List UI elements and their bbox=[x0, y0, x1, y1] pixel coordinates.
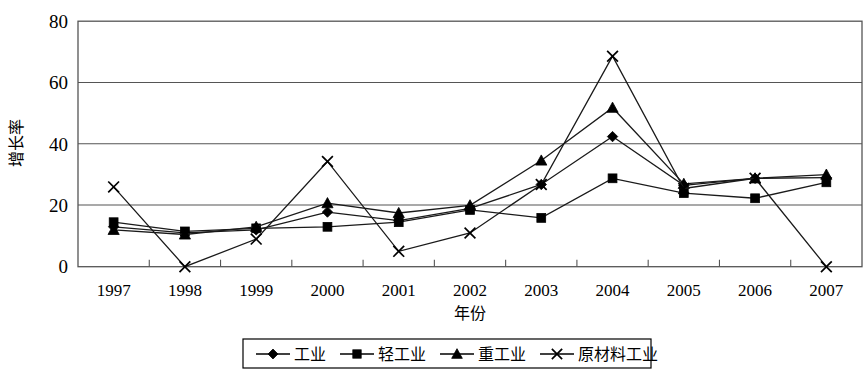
diamond-marker bbox=[322, 207, 332, 217]
x-tick-label: 2005 bbox=[667, 281, 701, 300]
chart-svg: 80 60 40 20 0 增长率 1997199819992000200120… bbox=[0, 0, 866, 369]
series-line bbox=[114, 108, 827, 235]
y-tick-20: 20 bbox=[49, 195, 68, 216]
series-layer bbox=[108, 51, 832, 272]
square-marker bbox=[537, 214, 546, 223]
y-tick-40: 40 bbox=[49, 134, 68, 155]
x-tick-label: 2004 bbox=[596, 281, 631, 300]
x-tick-label: 1997 bbox=[97, 281, 132, 300]
triangle-marker bbox=[322, 198, 333, 208]
x-marker bbox=[607, 51, 618, 62]
series-x bbox=[108, 51, 832, 272]
x-axis-title: 年份 bbox=[454, 304, 486, 323]
square-marker bbox=[394, 218, 403, 227]
gridlines bbox=[78, 83, 862, 206]
x-tick-label: 2002 bbox=[453, 281, 487, 300]
x-tick-label: 1999 bbox=[239, 281, 273, 300]
legend-label: 重工业 bbox=[478, 345, 526, 364]
x-tick-label: 2006 bbox=[738, 281, 772, 300]
x-tick-label: 2001 bbox=[382, 281, 416, 300]
x-marker bbox=[322, 156, 333, 167]
series-diamond bbox=[108, 131, 831, 238]
line-chart: 80 60 40 20 0 增长率 1997199819992000200120… bbox=[0, 0, 866, 369]
x-tick-label: 2000 bbox=[310, 281, 344, 300]
square-marker bbox=[751, 194, 760, 203]
x-marker bbox=[465, 228, 476, 239]
y-tick-80: 80 bbox=[49, 11, 68, 32]
x-marker bbox=[393, 246, 404, 257]
series-line bbox=[114, 56, 827, 267]
triangle-marker bbox=[607, 102, 618, 112]
legend-label: 工业 bbox=[294, 345, 326, 364]
x-marker bbox=[108, 182, 119, 193]
square-marker bbox=[353, 350, 361, 358]
square-marker bbox=[608, 174, 617, 183]
x-tick-label: 1998 bbox=[168, 281, 202, 300]
x-tick-label: 2007 bbox=[809, 281, 844, 300]
y-tick-0: 0 bbox=[59, 256, 69, 277]
triangle-marker bbox=[536, 155, 547, 165]
triangle-marker bbox=[821, 169, 832, 179]
legend-label: 轻工业 bbox=[378, 345, 426, 364]
series-triangle bbox=[108, 102, 832, 239]
legend: 工业轻工业重工业原材料工业 bbox=[243, 339, 658, 368]
legend-label: 原材料工业 bbox=[578, 345, 658, 364]
y-axis-ticks: 80 60 40 20 0 bbox=[49, 11, 68, 277]
series-line bbox=[114, 137, 827, 233]
square-marker bbox=[679, 189, 688, 198]
y-axis-title: 增长率 bbox=[7, 119, 26, 167]
y-tick-60: 60 bbox=[49, 72, 68, 93]
x-tick-label: 2003 bbox=[524, 281, 558, 300]
square-marker bbox=[323, 222, 332, 231]
diamond-marker bbox=[607, 131, 617, 141]
x-axis-ticks: 1997199819992000200120022003200420052006… bbox=[97, 260, 844, 300]
